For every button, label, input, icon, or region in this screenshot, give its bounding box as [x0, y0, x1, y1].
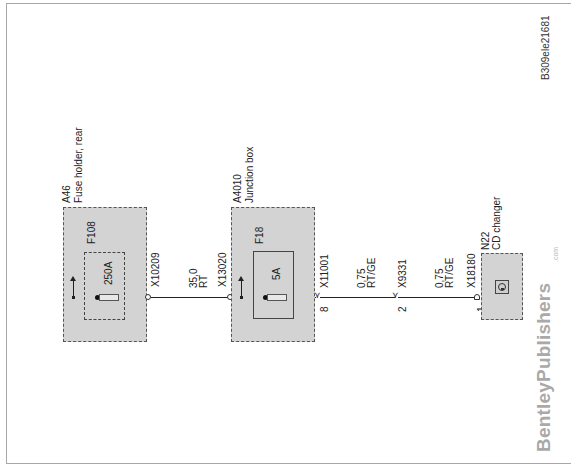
fuse-ref-f18: F18	[254, 227, 265, 244]
junction-dot-a46	[72, 296, 75, 299]
fuse-enclosure-f18	[253, 251, 294, 319]
fuse-icon-f108	[99, 294, 119, 301]
cd-changer-icon	[495, 280, 509, 294]
connector-ref-x18180: X18180	[466, 254, 477, 288]
connector-x9331-icon: ⋎	[392, 291, 399, 300]
component-ref-n22: N22	[480, 232, 491, 250]
frame-bottom-border	[6, 463, 571, 464]
connector-ref-x11001: X11001	[319, 254, 330, 288]
connector-pin-2: 2	[397, 306, 408, 312]
fuse-icon-f18	[267, 294, 287, 301]
arrow-stem-a46	[73, 280, 74, 297]
frame-top-border	[6, 3, 571, 4]
brand-watermark: BentleyPublishers	[533, 283, 555, 452]
wire-color-1: RT	[198, 275, 209, 288]
arrow-up-icon	[70, 276, 76, 281]
arrow-up-icon	[238, 276, 244, 281]
connector-x10209-icon	[145, 294, 151, 300]
wire-x9331-x18180	[398, 297, 476, 298]
component-ref-a4010: A4010	[232, 174, 243, 203]
junction-dot-a4010	[240, 296, 243, 299]
wire-x11001-x9331	[320, 297, 395, 298]
wire-x10209-x13020	[151, 297, 230, 298]
figure-id: B309ele21681	[540, 15, 551, 80]
fuse-rating-250a: 250A	[103, 262, 114, 285]
component-name-a46: Fuse holder, rear	[73, 127, 84, 203]
connector-ref-x13020: X13020	[217, 253, 228, 287]
connector-x11001-icon: ⋎	[314, 291, 321, 300]
arrow-stem-a4010	[241, 280, 242, 297]
component-name-a4010: Junction box	[244, 147, 255, 203]
fuse-ref-f108: F108	[86, 221, 97, 244]
component-ref-a46: A46	[61, 185, 72, 203]
connector-ref-x10209: X10209	[150, 253, 161, 287]
wire-color-3: RT/GE	[444, 258, 455, 288]
wire-color-2: RT/GE	[366, 258, 377, 288]
frame-left-border	[6, 3, 7, 463]
brand-suffix: .com	[552, 247, 559, 262]
fuse-rating-5a: 5A	[271, 268, 282, 280]
component-name-n22: CD changer	[491, 197, 502, 250]
connector-x18180-icon	[474, 294, 480, 300]
connector-ref-x9331: X9331	[397, 259, 408, 288]
connector-pin-8: 8	[319, 306, 330, 312]
cd-hub-icon	[501, 288, 504, 290]
